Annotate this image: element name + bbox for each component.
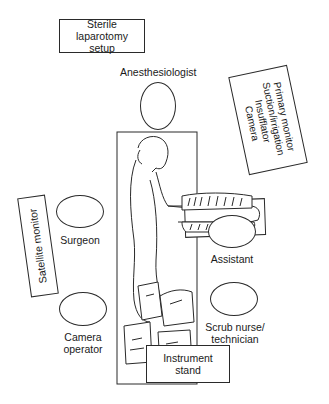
instrument-stand-box: Instrument stand (146, 345, 230, 383)
surgeon-label: Surgeon (50, 234, 110, 246)
assistant-label: Assistant (206, 253, 258, 265)
scrub-nurse-line1: Scrub nurse/ (200, 321, 270, 333)
scrub-nurse-position (210, 282, 258, 316)
satellite-monitor-label: Satellite monitor (27, 208, 49, 284)
anesthesiologist-label: Anesthesiologist (120, 66, 196, 78)
camera-operator-label: Camera operator (50, 331, 116, 355)
anesthesiologist-position (140, 82, 176, 130)
scrub-nurse-label: Scrub nurse/ technician (200, 321, 270, 345)
camera-operator-position (59, 292, 107, 326)
sterile-setup-line1: Sterile laparotomy (60, 18, 144, 42)
instrument-stand-line1: Instrument (163, 352, 213, 364)
scrub-nurse-line2: technician (200, 333, 270, 345)
assistant-position (208, 215, 256, 248)
camera-operator-line2: operator (50, 343, 116, 355)
surgeon-position (56, 195, 104, 228)
instrument-stand-line2: stand (163, 364, 213, 376)
camera-operator-line1: Camera (50, 331, 116, 343)
sterile-setup-box: Sterile laparotomy setup (59, 19, 145, 53)
sterile-setup-line2: setup (60, 42, 144, 54)
